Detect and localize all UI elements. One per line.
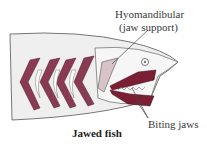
jaw-support-label: (jaw support): [119, 21, 178, 33]
diagram-caption: Jawed fish: [72, 127, 122, 139]
biting-jaws-label: Biting jaws: [148, 118, 198, 130]
hyomandibular-label: Hyomandibular: [115, 8, 184, 20]
